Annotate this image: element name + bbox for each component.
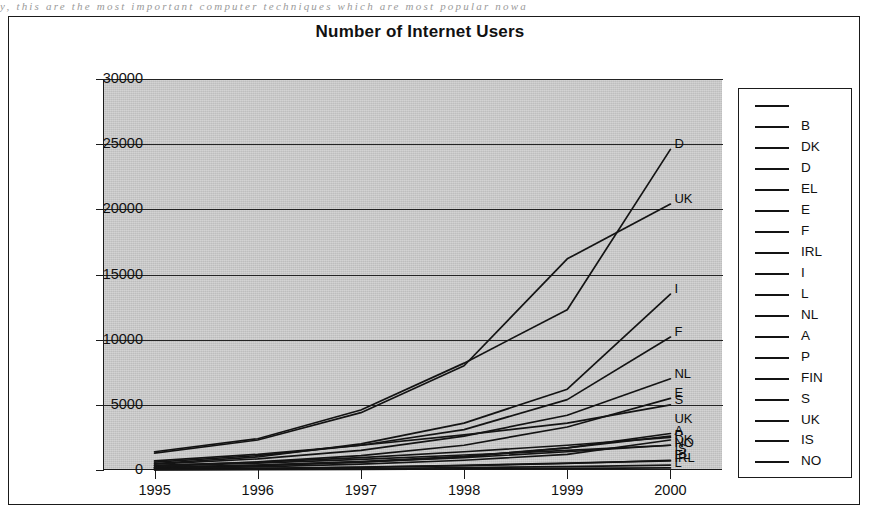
legend-line-swatch bbox=[755, 399, 789, 401]
legend-line-swatch bbox=[755, 210, 789, 212]
legend-item[interactable]: F bbox=[739, 221, 853, 243]
x-axis-tick-label: 1996 bbox=[223, 482, 293, 498]
legend-line-swatch bbox=[755, 461, 789, 463]
legend-item-label: IRL bbox=[801, 244, 822, 259]
x-axis-tick-label: 1998 bbox=[429, 482, 499, 498]
legend-item-label: EL bbox=[801, 181, 818, 196]
legend-item[interactable] bbox=[739, 95, 853, 117]
series-end-label: L bbox=[674, 456, 681, 469]
legend-item[interactable]: S bbox=[739, 389, 853, 411]
legend-item[interactable]: EL bbox=[739, 179, 853, 201]
legend-item[interactable]: NL bbox=[739, 305, 853, 327]
legend-line-swatch bbox=[755, 440, 789, 442]
legend-item-label: A bbox=[801, 328, 810, 343]
x-axis-tick-label: 2000 bbox=[635, 482, 705, 498]
legend-item[interactable]: NO bbox=[739, 451, 853, 473]
legend-item[interactable]: B bbox=[739, 116, 853, 138]
series-end-label: S bbox=[674, 393, 683, 406]
x-axis-tick-mark bbox=[155, 470, 156, 479]
legend-line-swatch bbox=[755, 105, 789, 107]
x-axis-tick-label: 1995 bbox=[120, 482, 190, 498]
scanned-text-strip: y, this are the most important computer … bbox=[0, 0, 869, 14]
legend-line-swatch bbox=[755, 126, 789, 128]
legend-item[interactable]: DK bbox=[739, 137, 853, 159]
legend-item-label: L bbox=[801, 286, 809, 301]
legend-item-label: NL bbox=[801, 307, 818, 322]
chart-page: y, this are the most important computer … bbox=[0, 0, 869, 513]
legend-item-label: B bbox=[801, 118, 810, 133]
legend-item[interactable]: IRL bbox=[739, 242, 853, 264]
legend-item[interactable]: UK bbox=[739, 410, 853, 432]
legend-item-label: F bbox=[801, 223, 809, 238]
series-line bbox=[155, 204, 671, 453]
legend-item-label: DK bbox=[801, 139, 820, 154]
chart-title: Number of Internet Users bbox=[120, 22, 720, 42]
legend-item[interactable]: IS bbox=[739, 430, 853, 452]
y-axis-tick-mark bbox=[96, 470, 104, 471]
legend-line-swatch bbox=[755, 315, 789, 317]
legend-line-swatch bbox=[755, 294, 789, 296]
legend-line-swatch bbox=[755, 252, 789, 254]
legend-item[interactable]: I bbox=[739, 263, 853, 285]
legend-item-label: D bbox=[801, 160, 811, 175]
legend[interactable]: BDKDELEFIRLILNLAPFINSUKISNO bbox=[738, 88, 852, 478]
legend-line-swatch bbox=[755, 420, 789, 422]
series-lines bbox=[103, 79, 722, 470]
x-axis-tick-mark bbox=[361, 470, 362, 479]
series-end-label: D bbox=[674, 137, 683, 150]
x-axis-tick-mark bbox=[258, 470, 259, 479]
legend-line-swatch bbox=[755, 189, 789, 191]
legend-item-label: S bbox=[801, 391, 810, 406]
legend-item-label: I bbox=[801, 265, 805, 280]
legend-line-swatch bbox=[755, 336, 789, 338]
legend-line-swatch bbox=[755, 231, 789, 233]
legend-item-label: E bbox=[801, 202, 810, 217]
x-axis-tick-label: 1997 bbox=[326, 482, 396, 498]
legend-line-swatch bbox=[755, 357, 789, 359]
legend-line-swatch bbox=[755, 378, 789, 380]
x-axis-tick-mark bbox=[670, 470, 671, 479]
legend-item-label: P bbox=[801, 349, 810, 364]
x-axis-tick-mark bbox=[464, 470, 465, 479]
legend-item[interactable]: D bbox=[739, 158, 853, 180]
series-end-label: F bbox=[674, 325, 682, 338]
legend-item[interactable]: L bbox=[739, 284, 853, 306]
legend-line-swatch bbox=[755, 168, 789, 170]
legend-item[interactable]: E bbox=[739, 200, 853, 222]
series-end-label: UK bbox=[674, 192, 692, 205]
x-axis-tick-mark bbox=[567, 470, 568, 479]
series-end-label: I bbox=[674, 282, 678, 295]
legend-line-swatch bbox=[755, 273, 789, 275]
legend-item-label: IS bbox=[801, 432, 814, 447]
series-end-label: NL bbox=[674, 367, 691, 380]
legend-item-label: FIN bbox=[801, 370, 823, 385]
legend-line-swatch bbox=[755, 147, 789, 149]
legend-item-label: UK bbox=[801, 412, 820, 427]
legend-item[interactable]: FIN bbox=[739, 368, 853, 390]
legend-item[interactable]: P bbox=[739, 347, 853, 369]
legend-item[interactable]: A bbox=[739, 326, 853, 348]
x-axis-tick-label: 1999 bbox=[532, 482, 602, 498]
legend-item-label: NO bbox=[801, 453, 821, 468]
